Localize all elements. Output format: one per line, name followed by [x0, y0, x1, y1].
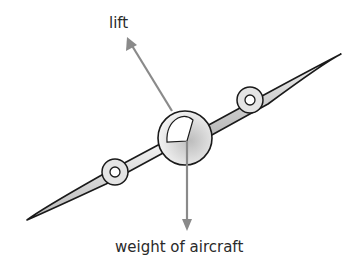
fuselage — [158, 111, 212, 165]
right-wing — [205, 54, 341, 136]
left-wing — [27, 144, 165, 220]
right-engine — [237, 87, 263, 113]
left-engine — [102, 159, 128, 185]
weight-label: weight of aircraft — [115, 238, 243, 256]
lift-label: lift — [109, 14, 128, 32]
lift-arrow — [126, 37, 172, 111]
aircraft-diagram — [0, 0, 358, 272]
